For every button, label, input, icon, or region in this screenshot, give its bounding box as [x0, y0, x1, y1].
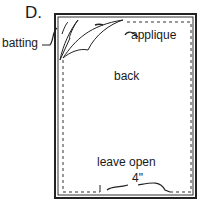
step-label: D. [25, 3, 42, 23]
applique-label: applique [131, 28, 176, 42]
seam-left [63, 60, 100, 192]
measurement-label: 4" [132, 171, 143, 185]
back-label: back [114, 69, 139, 83]
batting-label: batting [2, 36, 38, 50]
leave-open-label: leave open [97, 155, 156, 169]
